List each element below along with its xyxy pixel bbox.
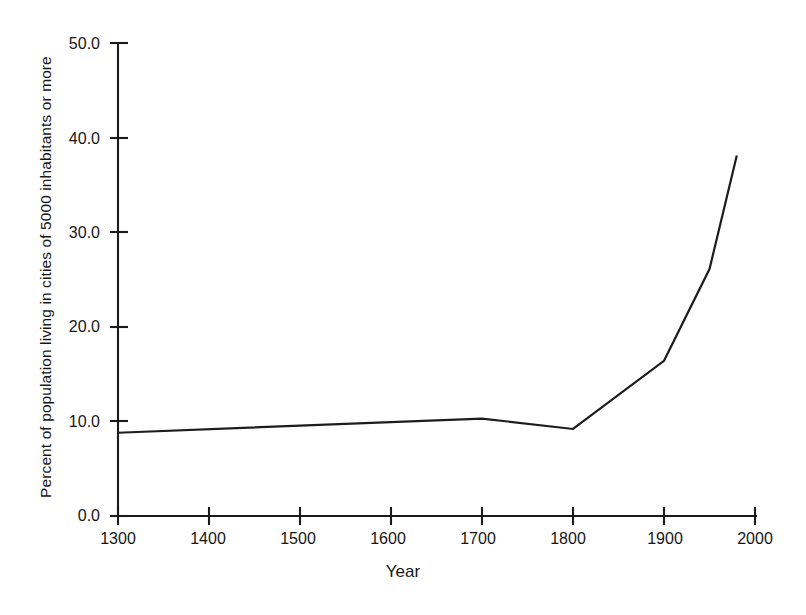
- data-series-line: [118, 156, 737, 433]
- plot-area: [0, 0, 806, 615]
- chart-figure: Percent of population living in cities o…: [0, 0, 806, 615]
